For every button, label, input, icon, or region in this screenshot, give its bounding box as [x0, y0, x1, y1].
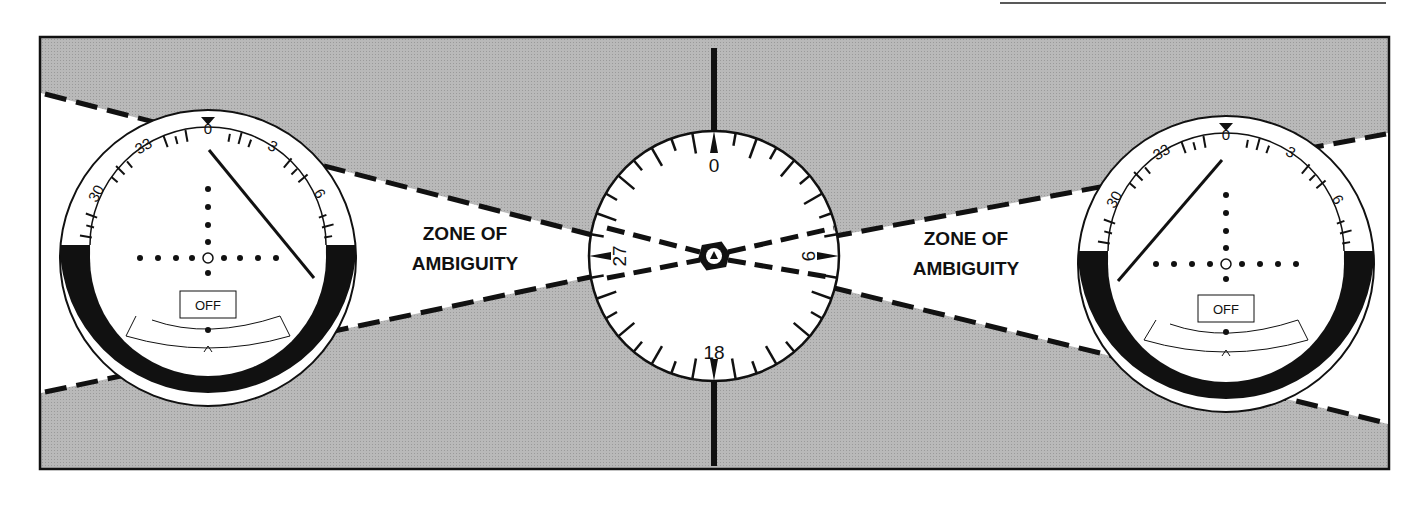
compass-label-north: 0	[709, 155, 720, 176]
left-course-indicator: 30 33 0 3 6 OFF	[60, 110, 356, 406]
compass-label-south: 18	[703, 342, 724, 363]
right-off-flag-text: OFF	[1213, 302, 1239, 317]
compass-label-west: 27	[609, 245, 630, 266]
zone-label-left-line2: AMBIGUITY	[412, 253, 519, 274]
compass-label-east: 9	[798, 251, 819, 262]
zone-label-right-line2: AMBIGUITY	[913, 258, 1020, 279]
zone-label-left-line1: ZONE OF	[423, 223, 507, 244]
right-course-indicator: 30 33 0 3 6 OFF	[1078, 116, 1374, 412]
zone-of-ambiguity-diagram: ZONE OF AMBIGUITY ZONE OF AMBIGUITY	[0, 0, 1427, 506]
left-center-ring	[203, 253, 213, 263]
center-compass-card: 0 18 27 9	[589, 131, 839, 381]
zone-label-right-line1: ZONE OF	[924, 228, 1008, 249]
left-off-flag-text: OFF	[195, 298, 221, 313]
right-center-ring	[1221, 259, 1231, 269]
